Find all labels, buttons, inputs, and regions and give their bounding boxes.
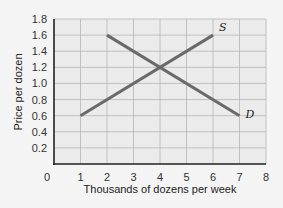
y-tick-label: 0.2: [32, 142, 47, 154]
y-tick-label: 0.8: [32, 94, 47, 106]
y-tick-label: 1.2: [32, 61, 47, 73]
y-tick-label: 1.6: [32, 29, 47, 41]
x-tick-label: 2: [104, 171, 110, 183]
x-tick-label: 8: [263, 171, 269, 183]
y-tick-label: 1.0: [32, 77, 47, 89]
x-tick-label: 4: [157, 171, 163, 183]
x-tick-label: 6: [210, 171, 216, 183]
y-axis-ticks: 0.20.40.60.81.01.21.41.61.8: [32, 13, 47, 154]
x-tick-label: 5: [183, 171, 189, 183]
x-axis-title: Thousands of dozens per week: [84, 183, 237, 195]
y-axis-title: Price per dozen: [12, 53, 24, 130]
y-tick-label: 1.4: [32, 45, 47, 57]
x-tick-label: 7: [236, 171, 242, 183]
curve-label-d: D: [245, 108, 255, 121]
supply-demand-chart: 0.20.40.60.81.01.21.41.61.8 012345678 SD…: [0, 0, 283, 208]
x-tick-label: 0: [44, 171, 50, 183]
x-tick-label: 3: [130, 171, 136, 183]
y-tick-label: 0.4: [32, 126, 47, 138]
x-axis-ticks: 012345678: [44, 171, 269, 183]
y-tick-label: 1.8: [32, 13, 47, 25]
curve-label-s: S: [219, 21, 227, 34]
y-tick-label: 0.6: [32, 110, 47, 122]
x-tick-label: 1: [77, 171, 83, 183]
